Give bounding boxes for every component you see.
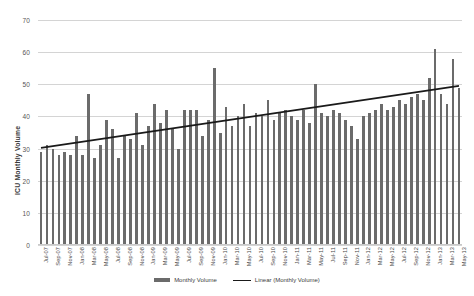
y-axis-label: ICU Monthly Volume (14, 126, 21, 195)
chart-legend: Monthly Volume Linear (Monthly Volume) (0, 277, 474, 283)
x-axis-tick-label: Jul-07 (43, 247, 49, 263)
legend-item-monthly-volume: Monthly Volume (154, 277, 217, 283)
y-axis-tick-label: 20 (0, 177, 30, 184)
x-axis-tick-label: Sep-08 (127, 247, 133, 266)
x-axis-line (38, 244, 462, 245)
legend-bar-swatch-icon (154, 278, 170, 282)
x-axis-tick-label: Jan-08 (79, 247, 85, 265)
x-axis-tick-label: Nov-07 (67, 247, 73, 266)
x-axis-tick-label: Jan-12 (365, 247, 371, 265)
plot-area (38, 20, 462, 245)
x-axis-tick-label: Nov-09 (210, 247, 216, 266)
x-axis-tick-label: May-10 (246, 247, 252, 266)
x-axis-tick-label: Jan-09 (150, 247, 156, 265)
x-axis-tick-label: Mar-10 (234, 247, 240, 265)
x-axis-tick-label: Jul-11 (330, 247, 336, 262)
x-axis-tick-label: Mar-08 (91, 247, 97, 265)
x-axis-tick-label: Sep-09 (198, 247, 204, 266)
y-axis-tick-label: 70 (0, 17, 30, 24)
x-axis-tick-label: Sep-07 (55, 247, 61, 266)
y-axis-tick-label: 10 (0, 209, 30, 216)
legend-line-swatch-icon (233, 280, 251, 281)
trendline (38, 20, 462, 245)
x-axis-tick-label: Mar-11 (306, 247, 312, 265)
x-axis-tick-label: May-11 (318, 247, 324, 266)
chart-container: ICU Monthly Volume 010203040506070 Jul-0… (0, 0, 474, 296)
y-axis-tick-label: 0 (0, 242, 30, 249)
x-axis-tick-label: Jul-10 (258, 247, 264, 263)
x-axis-tick-label: Jul-12 (401, 247, 407, 263)
legend-label: Linear (Monthly Volume) (255, 277, 320, 283)
x-axis-tick-label: May-09 (174, 247, 180, 266)
x-axis-tick-label: Mar-09 (162, 247, 168, 265)
x-axis-tick-label: May-13 (461, 247, 467, 266)
x-axis-tick-label: Mar-12 (377, 247, 383, 265)
x-axis-tick-label: Jan-13 (437, 247, 443, 265)
y-axis-tick-label: 50 (0, 81, 30, 88)
x-axis-tick-label: Jan-11 (294, 247, 300, 264)
legend-label: Monthly Volume (174, 277, 217, 283)
x-axis-tick-label: Nov-08 (139, 247, 145, 266)
y-axis-tick-label: 40 (0, 113, 30, 120)
x-axis-tick-label: Sep-11 (342, 247, 348, 265)
x-axis-tick-label: Nov-10 (282, 247, 288, 266)
legend-item-linear-trend: Linear (Monthly Volume) (233, 277, 320, 283)
y-axis-tick-label: 60 (0, 49, 30, 56)
x-axis-tick-label: Nov-12 (425, 247, 431, 266)
x-axis-tick-label: Mar-13 (449, 247, 455, 265)
x-axis-tick-label: Jul-09 (186, 247, 192, 263)
x-axis-tick-label: Jul-08 (115, 247, 121, 263)
x-axis-tick-label: Sep-12 (413, 247, 419, 266)
gridline (38, 245, 462, 246)
x-axis-tick-label: Sep-10 (270, 247, 276, 266)
x-axis-tick-label: Jan-10 (222, 247, 228, 265)
y-axis-tick-label: 30 (0, 145, 30, 152)
x-axis-tick-label: Nov-11 (354, 247, 360, 265)
x-axis-tick-label: May-12 (389, 247, 395, 266)
x-axis-tick-label: May-08 (103, 247, 109, 266)
